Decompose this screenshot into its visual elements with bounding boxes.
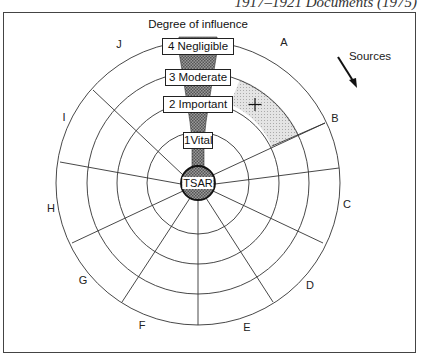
sector-label-c: C — [343, 198, 351, 210]
tier-moderate: 3 Moderate — [165, 69, 231, 86]
sector-label-e: E — [243, 321, 250, 333]
sources-label: Sources — [349, 50, 391, 62]
sector-label-j: J — [116, 38, 122, 50]
tsar-label: TSAR — [182, 177, 213, 189]
sector-label-d: D — [306, 279, 314, 291]
sector-label-i: I — [62, 111, 65, 123]
tier-vital: 1Vital — [183, 132, 213, 149]
tier-important: 2 Important — [163, 96, 233, 113]
tier-negligible: 4 Negligible — [162, 38, 234, 55]
arrow-head-icon — [349, 78, 357, 88]
sector-label-b: B — [331, 112, 338, 124]
sector-label-h: H — [47, 202, 55, 214]
sector-label-f: F — [139, 319, 146, 331]
sector-label-g: G — [79, 274, 88, 286]
sector-label-a: A — [280, 36, 287, 48]
diagram-title: Degree of influence — [148, 18, 248, 30]
